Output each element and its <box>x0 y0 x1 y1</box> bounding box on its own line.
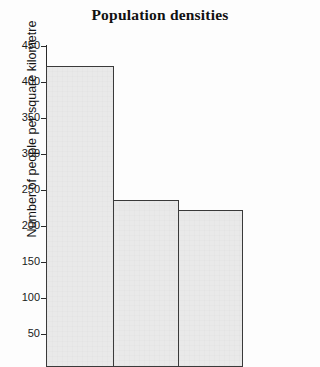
bar-texture <box>114 201 178 366</box>
bar[interactable] <box>113 200 179 367</box>
bar[interactable] <box>46 66 114 367</box>
bar[interactable] <box>178 210 243 367</box>
plot-area <box>0 0 320 367</box>
bar-texture <box>179 211 242 366</box>
bar-texture <box>47 67 113 366</box>
population-densities-bar-chart: Population densities Number of people pe… <box>0 0 320 367</box>
